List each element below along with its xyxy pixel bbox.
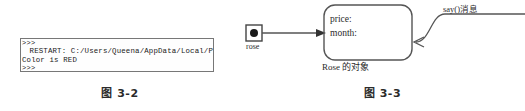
figure-3-3: rose price: month: Rose 的对象 say()消息 图 3-… [240, 0, 525, 111]
message-curve-line [416, 14, 525, 42]
reference-dot-icon [250, 29, 258, 37]
console-line-prompt-bottom: >>> [21, 64, 213, 72]
object-attribute-month: month: [330, 28, 357, 38]
object-diagram-graphics [240, 0, 525, 84]
figure-3-2: >>> RESTART: C:/Users/Queena/AppData/Loc… [0, 0, 240, 111]
console-line-restart: RESTART: C:/Users/Queena/AppData/Local/P [21, 47, 213, 55]
idle-console-output: >>> RESTART: C:/Users/Queena/AppData/Loc… [20, 38, 214, 72]
console-line-output: Color is RED [21, 56, 213, 64]
message-label: say()消息 [443, 2, 478, 14]
figure-3-2-caption: 图 3-2 [0, 84, 240, 100]
reference-variable-label: rose [246, 42, 259, 51]
console-line-prompt-top: >>> [21, 39, 213, 47]
figure-3-3-caption: 图 3-3 [300, 84, 465, 100]
object-caption-label: Rose 的对象 [322, 60, 369, 73]
object-attribute-price: price: [330, 14, 352, 24]
